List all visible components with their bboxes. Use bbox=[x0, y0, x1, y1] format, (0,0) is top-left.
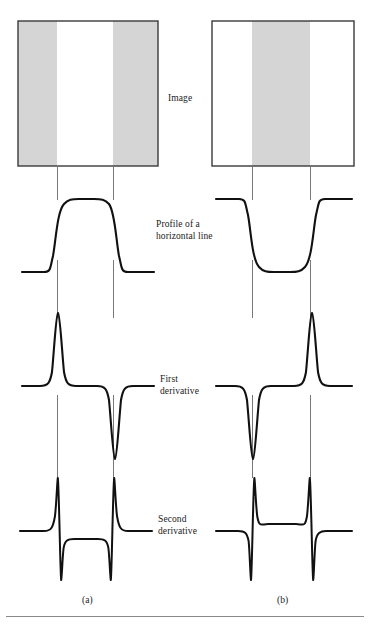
row-label-second-derivative: Second derivative bbox=[158, 513, 224, 537]
first-derivative-curve-b bbox=[216, 313, 352, 459]
profile-curve-a bbox=[22, 199, 154, 272]
image-strip-a bbox=[18, 21, 158, 166]
band-a-center-white bbox=[57, 21, 113, 166]
band-b-center-gray bbox=[252, 21, 310, 166]
band-a-right-gray bbox=[113, 21, 158, 166]
figure-root: Image Profile of a horizontal line First… bbox=[0, 0, 370, 625]
row-label-profile: Profile of a horizontal line bbox=[156, 218, 228, 242]
panel-label-b: (b) bbox=[277, 595, 288, 605]
second-derivative-curve-b bbox=[216, 478, 352, 580]
image-strip-b bbox=[212, 21, 354, 166]
bottom-divider bbox=[6, 616, 364, 617]
second-derivative-curve-a bbox=[20, 478, 152, 580]
guide-lines bbox=[58, 167, 311, 478]
row-label-image: Image bbox=[168, 92, 228, 104]
panel-label-a: (a) bbox=[82, 595, 93, 605]
profile-curve-b bbox=[216, 199, 352, 272]
band-a-left-gray bbox=[18, 21, 57, 166]
first-derivative-curve-a bbox=[22, 313, 154, 459]
row-label-first-derivative: First derivative bbox=[160, 373, 222, 397]
